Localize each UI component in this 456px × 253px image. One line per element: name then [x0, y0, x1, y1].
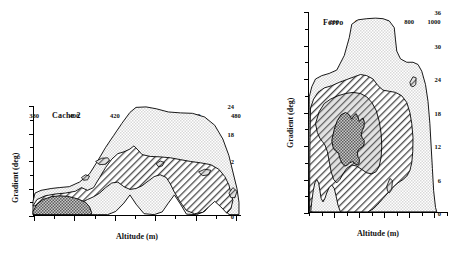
figure-contour-pair: 06121824380400420440460480 Cache 2 Gradi… [0, 0, 456, 253]
contour-layer [0, 0, 456, 253]
